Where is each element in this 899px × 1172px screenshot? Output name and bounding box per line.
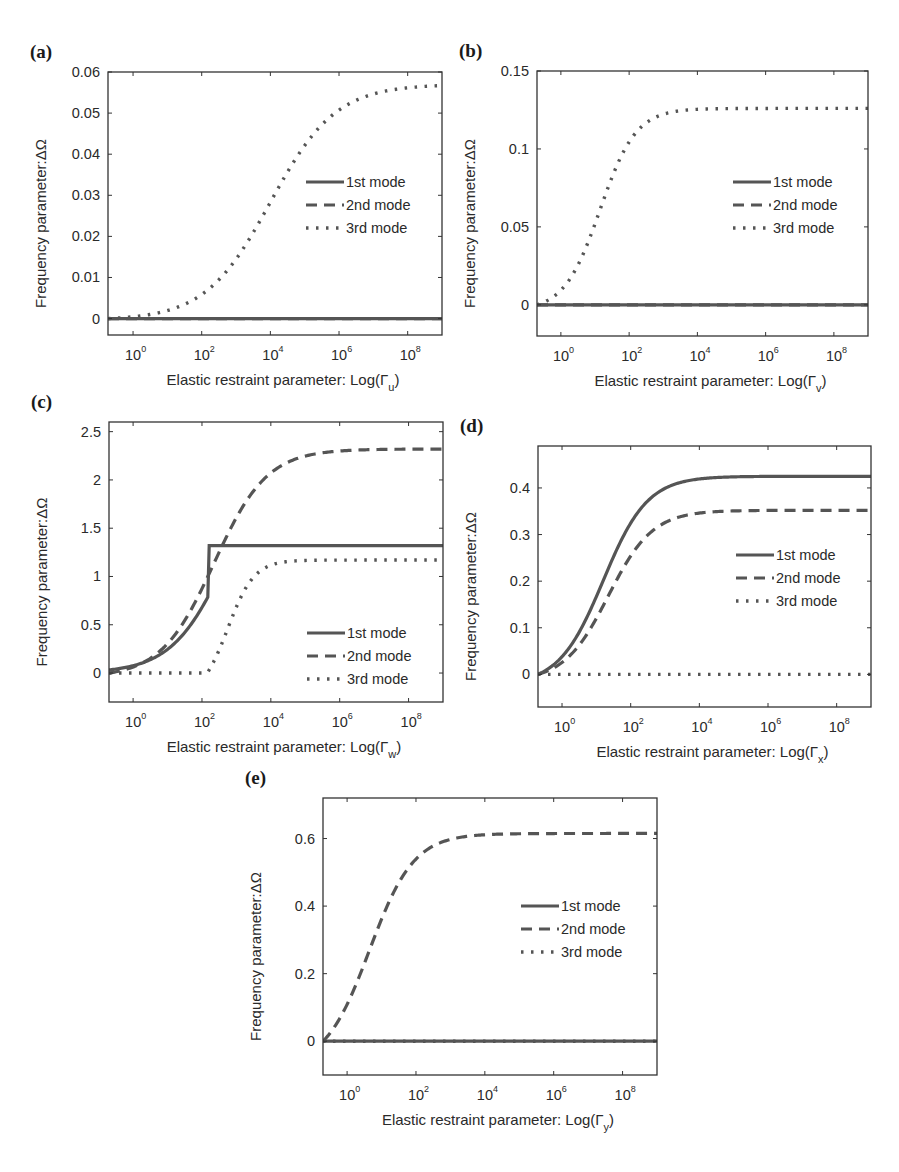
legend-item-1: 1st mode	[346, 174, 406, 190]
panels: (a)10010210410610800.010.020.030.040.050…	[30, 40, 871, 1133]
y-tick-label: 0.5	[81, 617, 101, 633]
y-tick-label: 0.04	[72, 146, 100, 162]
legend-item-3: 3rd mode	[773, 220, 834, 236]
x-tick-label: 100	[125, 344, 146, 363]
x-tick-label: 100	[554, 716, 575, 735]
legend-item-2: 2nd mode	[346, 197, 411, 213]
panel-d: (d)10010210410610800.10.20.30.4Frequency…	[460, 415, 871, 765]
panel-label: (c)	[31, 391, 52, 413]
y-tick-label: 0.2	[510, 573, 530, 589]
x-tick-label: 108	[401, 711, 422, 730]
legend-item-1: 1st mode	[773, 174, 833, 190]
x-tick-label: 108	[826, 345, 847, 364]
panel-b: (b)10010210410610800.050.10.15Frequency …	[459, 40, 868, 394]
x-tick-label: 106	[332, 711, 353, 730]
legend: 1st mode2nd mode3rd mode	[307, 625, 412, 687]
x-tick-label: 106	[760, 716, 781, 735]
legend-item-2: 2nd mode	[561, 921, 626, 937]
plot-area	[323, 833, 657, 1041]
y-tick-label: 0	[521, 297, 529, 313]
panel-e: (e)10010210410610800.20.40.6Frequency pa…	[245, 767, 657, 1133]
x-tick-label: 102	[194, 344, 215, 363]
y-tick-label: 1.5	[81, 520, 101, 536]
legend-item-1: 1st mode	[347, 625, 407, 641]
x-axis-label: Elastic restraint parameter: Log(Γu)	[167, 371, 400, 393]
x-axis-label: Elastic restraint parameter: Log(Γy)	[382, 1111, 614, 1133]
y-tick-label: 0.01	[72, 269, 100, 285]
x-tick-label: 102	[621, 345, 642, 364]
legend: 1st mode2nd mode3rd mode	[521, 898, 626, 960]
y-tick-label: 0	[92, 311, 100, 327]
legend-item-3: 3rd mode	[776, 593, 837, 609]
y-tick-label: 0	[522, 666, 530, 682]
legend-item-3: 3rd mode	[347, 671, 408, 687]
legend: 1st mode2nd mode3rd mode	[733, 174, 838, 236]
panel-a: (a)10010210410610800.010.020.030.040.050…	[30, 41, 442, 393]
y-tick-label: 2.5	[81, 424, 101, 440]
y-tick-label: 0.03	[72, 187, 100, 203]
y-axis-label: Frequency parameter:ΔΩ	[32, 139, 49, 308]
y-axis-label: Frequency parameter:ΔΩ	[33, 498, 50, 667]
x-tick-label: 104	[262, 344, 283, 363]
panel-label: (e)	[245, 767, 266, 789]
y-tick-label: 0.2	[295, 966, 315, 982]
legend-item-2: 2nd mode	[776, 570, 841, 586]
y-tick-label: 0.6	[295, 831, 315, 847]
y-axis-label: Frequency parameter:ΔΩ	[462, 512, 479, 681]
x-tick-label: 104	[477, 1084, 498, 1103]
x-tick-label: 106	[546, 1084, 567, 1103]
x-tick-label: 104	[691, 716, 712, 735]
x-tick-label: 102	[623, 716, 644, 735]
x-tick-label: 104	[263, 711, 284, 730]
legend-item-3: 3rd mode	[346, 220, 407, 236]
legend-item-2: 2nd mode	[773, 197, 838, 213]
y-axis-label: Frequency parameter:ΔΩ	[461, 139, 478, 308]
legend: 1st mode2nd mode3rd mode	[736, 547, 841, 609]
x-tick-label: 100	[339, 1084, 360, 1103]
x-axis-label: Elastic restraint parameter: Log(Γv)	[594, 372, 826, 394]
x-tick-label: 102	[194, 711, 215, 730]
panel-label: (a)	[30, 41, 52, 63]
panel-label: (b)	[459, 40, 482, 62]
x-tick-label: 106	[758, 345, 779, 364]
legend-item-1: 1st mode	[776, 547, 836, 563]
y-tick-label: 0	[307, 1033, 315, 1049]
x-tick-label: 104	[689, 345, 710, 364]
x-tick-label: 100	[553, 345, 574, 364]
y-tick-label: 0.3	[510, 527, 530, 543]
legend-item-3: 3rd mode	[561, 944, 622, 960]
y-tick-label: 0.02	[72, 228, 100, 244]
y-tick-label: 0.1	[510, 620, 530, 636]
figure: (a)10010210410610800.010.020.030.040.050…	[0, 0, 899, 1172]
y-tick-label: 0.1	[509, 141, 529, 157]
x-tick-label: 108	[829, 716, 850, 735]
y-tick-label: 0.05	[501, 219, 529, 235]
series-2nd-mode	[323, 833, 657, 1041]
y-tick-label: 0.4	[510, 480, 530, 496]
y-tick-label: 0.15	[501, 63, 529, 79]
legend-item-2: 2nd mode	[347, 648, 412, 664]
y-tick-label: 0.06	[72, 64, 100, 80]
x-axis-label: Elastic restraint parameter: Log(Γw)	[167, 738, 402, 760]
y-tick-label: 2	[93, 472, 101, 488]
y-axis-label: Frequency parameter:ΔΩ	[247, 872, 264, 1041]
panel-label: (d)	[460, 415, 483, 437]
y-tick-label: 0	[93, 665, 101, 681]
x-axis-label: Elastic restraint parameter: Log(Γx)	[596, 743, 828, 765]
y-tick-label: 0.4	[295, 898, 315, 914]
legend: 1st mode2nd mode3rd mode	[306, 174, 411, 236]
panel-c: (c)10010210410610800.511.522.5Frequency …	[31, 391, 443, 760]
y-tick-label: 1	[93, 568, 101, 584]
x-tick-label: 102	[408, 1084, 429, 1103]
x-tick-label: 106	[331, 344, 352, 363]
legend-item-1: 1st mode	[561, 898, 621, 914]
x-tick-label: 100	[125, 711, 146, 730]
x-tick-label: 108	[400, 344, 421, 363]
y-tick-label: 0.05	[72, 105, 100, 121]
x-tick-label: 108	[615, 1084, 636, 1103]
